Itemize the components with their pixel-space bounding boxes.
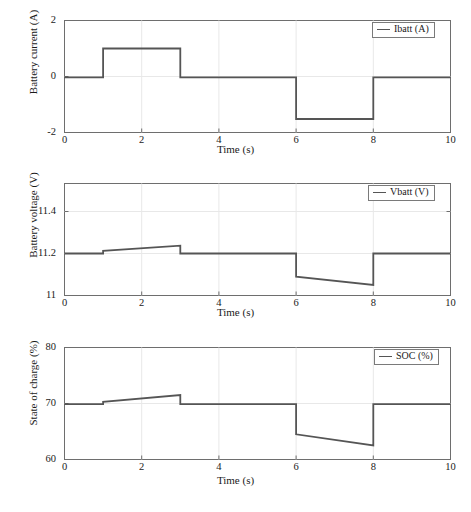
chart-panel-battery-voltage: Battery voltage (V) Time (s) 11.4 11.2 1… <box>0 163 471 328</box>
x-tick-label: 6 <box>281 461 311 472</box>
battery-simulation-figure: Battery current (A) Time (s) 2 0 -2 0 2 … <box>0 0 471 512</box>
chart-panel-battery-current: Battery current (A) Time (s) 2 0 -2 0 2 … <box>0 0 471 165</box>
x-tick-label: 6 <box>281 134 311 145</box>
y-tick-label: 2 <box>28 14 56 25</box>
x-axis-label-time: Time (s) <box>0 474 471 486</box>
x-tick-label: 0 <box>50 297 80 308</box>
y-tick-label: 0 <box>28 70 56 81</box>
x-tick-label: 10 <box>436 461 466 472</box>
y-tick-label: 70 <box>26 397 56 408</box>
x-tick-label: 8 <box>358 297 388 308</box>
legend-line-swatch-ibatt <box>377 29 390 30</box>
x-tick-label: 2 <box>127 297 157 308</box>
x-tick-label: 4 <box>204 461 234 472</box>
x-tick-label: 2 <box>127 461 157 472</box>
legend-state-of-charge: SOC (%) <box>374 349 439 365</box>
x-tick-label: 10 <box>436 134 466 145</box>
x-tick-label: 10 <box>436 297 466 308</box>
y-axis-label-soc: State of charge (%) <box>27 313 39 453</box>
chart-panel-state-of-charge: State of charge (%) Time (s) 80 70 60 0 … <box>0 327 471 512</box>
x-tick-label: 6 <box>281 297 311 308</box>
x-tick-label: 0 <box>50 461 80 472</box>
legend-line-swatch-soc <box>379 356 392 357</box>
legend-line-swatch-vbatt <box>373 192 386 193</box>
legend-label-vbatt: Vbatt (V) <box>390 187 429 198</box>
x-tick-label: 4 <box>204 134 234 145</box>
x-tick-label: 4 <box>204 297 234 308</box>
x-tick-label: 0 <box>50 134 80 145</box>
x-tick-label: 2 <box>127 134 157 145</box>
legend-battery-current: Ibatt (A) <box>372 22 435 38</box>
legend-label-soc: SOC (%) <box>396 351 433 362</box>
y-tick-label: 11.4 <box>20 205 56 216</box>
legend-battery-voltage: Vbatt (V) <box>368 185 435 201</box>
y-tick-label: 80 <box>26 341 56 352</box>
legend-label-ibatt: Ibatt (A) <box>394 24 429 35</box>
y-tick-label: 11.2 <box>20 247 56 258</box>
x-tick-label: 8 <box>358 461 388 472</box>
x-tick-label: 8 <box>358 134 388 145</box>
